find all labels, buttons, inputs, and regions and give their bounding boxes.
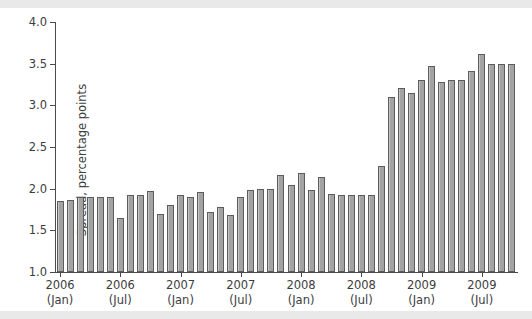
bar bbox=[127, 195, 134, 272]
bar bbox=[348, 195, 355, 272]
x-tick-label-year: 2007 bbox=[166, 278, 195, 292]
x-tick-mark bbox=[241, 272, 242, 277]
x-tick-mark bbox=[60, 272, 61, 277]
y-tick-label: 1.0 bbox=[29, 264, 47, 280]
bar bbox=[177, 195, 184, 272]
bar bbox=[308, 190, 315, 272]
top-margin-band bbox=[0, 0, 532, 8]
bar bbox=[508, 64, 515, 272]
x-tick-label: 2008(Jul) bbox=[347, 278, 376, 308]
x-tick-label-year: 2008 bbox=[286, 278, 315, 292]
bar bbox=[117, 218, 124, 272]
x-tick-label-month: (Jan) bbox=[407, 293, 436, 308]
bar bbox=[87, 197, 94, 272]
y-tick-mark bbox=[50, 272, 55, 273]
plot-area: 1.01.52.02.53.03.54.0 bbox=[55, 22, 517, 272]
bar bbox=[488, 64, 495, 272]
bar bbox=[237, 197, 244, 272]
bar bbox=[458, 80, 465, 273]
bar bbox=[157, 214, 164, 272]
chart-figure: Spread, percentage points 1.01.52.02.53.… bbox=[0, 8, 532, 311]
bar bbox=[468, 71, 475, 272]
bar bbox=[277, 175, 284, 272]
x-tick-mark bbox=[482, 272, 483, 277]
bar bbox=[137, 195, 144, 273]
x-tick-label: 2007(Jan) bbox=[166, 278, 195, 308]
x-tick-label-month: (Jan) bbox=[166, 293, 195, 308]
x-axis-line bbox=[55, 272, 518, 273]
x-tick-label-month: (Jul) bbox=[347, 293, 376, 308]
bar bbox=[167, 205, 174, 272]
bar bbox=[398, 88, 405, 272]
x-tick-label-month: (Jul) bbox=[467, 293, 496, 308]
y-tick-label: 1.5 bbox=[29, 222, 47, 238]
x-tick-label: 2009(Jul) bbox=[467, 278, 496, 308]
y-tick-label: 3.5 bbox=[29, 56, 47, 72]
bar bbox=[267, 189, 274, 272]
x-tick-label-month: (Jan) bbox=[286, 293, 315, 308]
y-tick-label: 3.0 bbox=[29, 97, 47, 113]
x-tick-label-year: 2008 bbox=[347, 278, 376, 292]
x-tick-mark bbox=[422, 272, 423, 277]
bar-series bbox=[55, 22, 517, 272]
x-tick-label: 2007(Jul) bbox=[226, 278, 255, 308]
bar bbox=[217, 207, 224, 272]
bar bbox=[338, 195, 345, 272]
bar bbox=[478, 54, 485, 272]
x-tick-label-month: (Jan) bbox=[45, 293, 74, 308]
x-tick-label-month: (Jul) bbox=[106, 293, 135, 308]
x-tick-label-year: 2006 bbox=[106, 278, 135, 292]
bar bbox=[298, 173, 305, 272]
bar bbox=[227, 215, 234, 272]
bar bbox=[358, 195, 365, 272]
bar bbox=[368, 195, 375, 272]
x-tick-mark bbox=[301, 272, 302, 277]
y-tick-label: 2.0 bbox=[29, 181, 47, 197]
bar bbox=[77, 197, 84, 272]
bar bbox=[328, 194, 335, 272]
bar bbox=[257, 189, 264, 272]
x-tick-label-year: 2009 bbox=[467, 278, 496, 292]
x-tick-label-year: 2009 bbox=[407, 278, 436, 292]
bar bbox=[247, 190, 254, 273]
bar bbox=[498, 64, 505, 272]
bar bbox=[67, 200, 74, 272]
x-tick-label: 2008(Jan) bbox=[286, 278, 315, 308]
x-tick-mark bbox=[181, 272, 182, 277]
x-tick-label: 2009(Jan) bbox=[407, 278, 436, 308]
bar bbox=[448, 80, 455, 273]
x-tick-label: 2006(Jul) bbox=[106, 278, 135, 308]
bar bbox=[288, 185, 295, 273]
bar bbox=[388, 97, 395, 272]
y-tick-label: 4.0 bbox=[29, 14, 47, 30]
bar bbox=[418, 80, 425, 273]
bar bbox=[378, 166, 385, 272]
bar bbox=[318, 177, 325, 272]
x-tick-mark bbox=[120, 272, 121, 277]
bar bbox=[438, 82, 445, 272]
bar bbox=[147, 191, 154, 272]
bar bbox=[207, 212, 214, 272]
x-tick-mark bbox=[361, 272, 362, 277]
bottom-margin-band bbox=[0, 311, 532, 319]
x-tick-label-month: (Jul) bbox=[226, 293, 255, 308]
bar bbox=[408, 93, 415, 272]
x-tick-label-year: 2007 bbox=[226, 278, 255, 292]
bar bbox=[97, 197, 104, 272]
x-tick-label-year: 2006 bbox=[45, 278, 74, 292]
bar bbox=[197, 192, 204, 272]
y-tick-label: 2.5 bbox=[29, 139, 47, 155]
bar bbox=[187, 197, 194, 272]
bar bbox=[107, 197, 114, 272]
bar bbox=[428, 66, 435, 272]
x-tick-label: 2006(Jan) bbox=[45, 278, 74, 308]
bar bbox=[57, 201, 64, 272]
